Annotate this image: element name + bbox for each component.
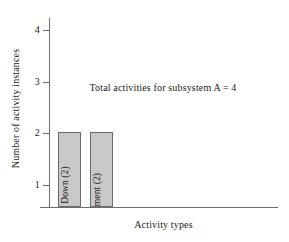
bar-label-design-down: Design Down (2): [60, 166, 70, 207]
bar-chart-figure: 4 3 2 1 Design Down (2) Document (2) Tot…: [0, 0, 289, 242]
x-axis-title: Activity types: [49, 219, 278, 230]
x-axis-line: [40, 207, 278, 208]
bar-document[interactable]: Document (2): [90, 132, 113, 207]
y-tick-label-3: 3: [26, 77, 40, 87]
y-tick-label-1: 1: [26, 180, 40, 190]
y-tick-label-4: 4: [26, 25, 40, 35]
bar-design-down[interactable]: Design Down (2): [58, 132, 81, 207]
bar-label-document: Document (2): [92, 173, 102, 207]
y-tick-label-2: 2: [26, 128, 40, 138]
y-axis-title: Number of activity instances: [10, 29, 21, 189]
plot-area: Design Down (2) Document (2): [49, 18, 278, 207]
chart-annotation: Total activities for subsystem A = 4: [78, 81, 248, 94]
